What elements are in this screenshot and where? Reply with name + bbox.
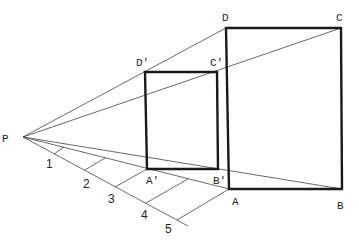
tick-label-2: 2 bbox=[83, 177, 90, 191]
label-d: D bbox=[222, 12, 229, 24]
tick-line-3 bbox=[115, 169, 147, 187]
label-a: A bbox=[232, 196, 239, 208]
tick-label-1: 1 bbox=[46, 157, 53, 171]
label-c: C bbox=[336, 12, 343, 24]
ray-p-d bbox=[23, 28, 226, 137]
tick-label-4: 4 bbox=[141, 208, 148, 222]
label-b-prime: B' bbox=[213, 175, 226, 187]
tick-label-3: 3 bbox=[108, 192, 115, 206]
small-rectangle bbox=[145, 72, 218, 169]
perspective-diagram: P D' C' A' B' D C A B 1 2 3 4 5 bbox=[0, 0, 359, 242]
tick-line-2 bbox=[85, 158, 105, 170]
label-a-prime: A' bbox=[146, 175, 159, 187]
label-c-prime: C' bbox=[210, 57, 223, 69]
large-rectangle bbox=[226, 28, 342, 189]
tick-label-5: 5 bbox=[165, 222, 172, 236]
tick-line-5 bbox=[177, 189, 229, 220]
label-b: B bbox=[337, 200, 344, 212]
tick-line-1 bbox=[54, 147, 64, 154]
ray-p-c bbox=[23, 28, 341, 137]
label-d-prime: D' bbox=[136, 57, 149, 69]
label-p: P bbox=[2, 133, 9, 145]
